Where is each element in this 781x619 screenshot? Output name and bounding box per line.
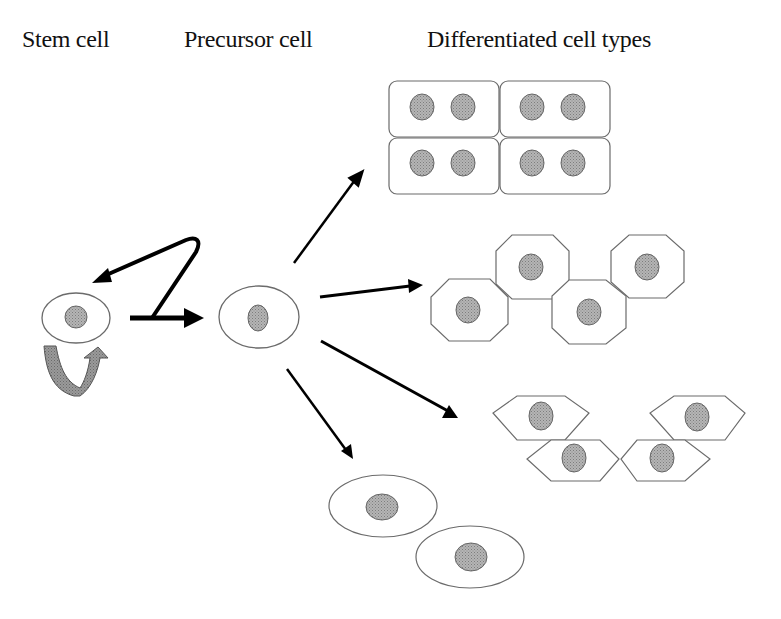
arrow-to-oval [287,369,353,459]
arrow-to-octagonal [320,279,423,297]
hexagonal-cells [493,396,745,481]
diagram-canvas [0,0,781,619]
self-renewal-arrow-icon [44,346,108,396]
stem-cell [42,293,110,343]
arrow-to-hexagonal [321,341,458,418]
octagonal-cells [431,235,684,344]
oval-cells [329,475,524,588]
cuboidal-cells [389,81,610,194]
arrow-to-cuboidal [294,172,362,263]
precursor-cell [219,286,299,348]
